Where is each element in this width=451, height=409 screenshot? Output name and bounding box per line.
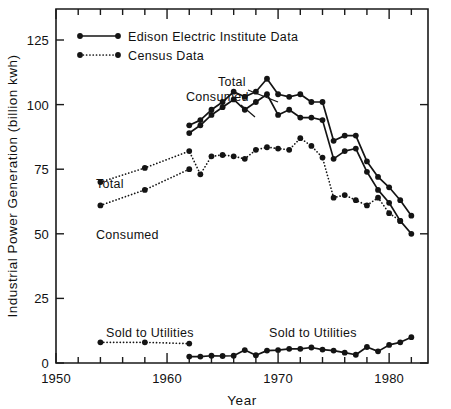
data-point-census-total [186,148,192,154]
data-point-eei-total [331,138,337,144]
data-point-eei-consumed [386,200,392,206]
legend-label-0: Edison Electric Institute Data [128,30,298,44]
data-point-census-total [275,146,281,152]
legend-marker-start-0 [77,33,83,39]
data-point-eei-sold [220,353,226,359]
data-point-eei-sold [375,348,381,354]
annotation-sold-eei: Sold to Utilities [269,326,357,340]
data-point-eei-sold [320,347,326,353]
y-axis-title: Industrial Power Generation (billion kwh… [5,55,20,318]
data-point-eei-consumed [353,146,359,152]
data-point-eei-total [364,159,370,165]
data-point-census-total [364,202,370,208]
x-tick-label: 1960 [152,371,182,386]
legend-marker-end-0 [115,33,121,39]
data-point-eei-sold [209,353,215,359]
y-tick-label: 75 [34,162,49,177]
data-point-eei-consumed [297,115,303,121]
data-point-eei-sold [197,354,203,360]
x-tick-label: 1970 [263,371,293,386]
data-point-eei-total [320,99,326,105]
chart-canvas: 19501960197019800255075100125YearIndustr… [0,0,451,409]
data-point-eei-sold [386,342,392,348]
data-series [98,76,415,360]
data-point-census-sold [142,339,148,345]
annotation-total-eei: Total [218,75,246,89]
legend-marker-start-1 [77,52,83,58]
data-point-census-total [353,197,359,203]
data-point-eei-consumed [275,112,281,118]
data-point-eei-total [275,91,281,97]
data-point-eei-sold [397,339,403,345]
data-point-census-sold [98,339,104,345]
data-point-eei-sold [309,345,315,351]
y-tick-label: 125 [27,33,49,48]
data-point-census-total [242,156,248,162]
data-point-eei-consumed [408,231,414,237]
data-point-census-total [375,195,381,201]
annotation-sold-census: Sold to Utilities [106,326,194,340]
data-point-eei-total [353,133,359,139]
data-point-census-total [297,135,303,141]
data-point-eei-total [297,91,303,97]
data-point-census-total [264,144,270,150]
legend-label-1: Census Data [128,49,204,63]
x-axis-title: Year [227,393,256,408]
data-point-eei-consumed [375,187,381,193]
data-point-eei-consumed [331,156,337,162]
data-point-eei-total [186,122,192,128]
data-point-eei-consumed [364,169,370,175]
data-point-eei-total [209,107,215,113]
data-point-eei-total [342,133,348,139]
data-point-eei-total [309,99,315,105]
data-point-census-sold [186,341,192,347]
data-point-eei-sold [331,348,337,354]
data-point-eei-total [264,76,270,82]
data-point-eei-sold [253,352,259,358]
chart-figure: 19501960197019800255075100125YearIndustr… [0,0,451,409]
data-point-eei-total [397,197,403,203]
data-point-eei-consumed [209,112,215,118]
y-tick-label: 0 [42,356,49,371]
data-point-eei-consumed [197,122,203,128]
data-point-eei-sold [231,353,237,359]
data-point-census-total [142,165,148,171]
data-point-census-total [320,155,326,161]
legend-marker-end-1 [115,52,121,58]
data-point-eei-sold [408,334,414,340]
data-point-census-total [331,195,337,201]
data-point-census-consumed [142,187,148,193]
data-point-census-total [253,147,259,153]
data-point-eei-total [408,213,414,219]
data-point-census-total [309,143,315,149]
data-point-census-total [342,192,348,198]
data-point-eei-total [197,117,203,123]
data-point-eei-sold [186,354,192,360]
data-point-census-consumed [98,202,104,208]
data-point-eei-sold [364,344,370,350]
annotation-consumed-eei: Consumed [186,90,249,104]
data-point-eei-consumed [220,104,226,110]
x-tick-label: 1950 [41,371,71,386]
data-point-eei-consumed [186,130,192,136]
data-point-census-total [197,171,203,177]
annotation-consumed-census: Consumed [96,228,159,242]
x-tick-label: 1980 [374,371,404,386]
data-point-census-total [286,147,292,153]
data-point-census-total [220,152,226,158]
data-point-eei-consumed [286,107,292,113]
data-point-eei-total [375,174,381,180]
data-point-eei-sold [353,352,359,358]
data-point-census-total [209,153,215,159]
data-point-eei-consumed [342,148,348,154]
data-point-eei-consumed [320,117,326,123]
data-point-eei-consumed [309,115,315,121]
leader-total-eei [248,90,278,102]
annotation-total-census: Total [96,177,124,191]
y-tick-label: 25 [34,291,49,306]
data-point-eei-sold [286,346,292,352]
data-point-census-total [397,218,403,224]
data-point-eei-sold [275,347,281,353]
data-point-eei-total [386,184,392,190]
data-point-eei-consumed [253,99,259,105]
